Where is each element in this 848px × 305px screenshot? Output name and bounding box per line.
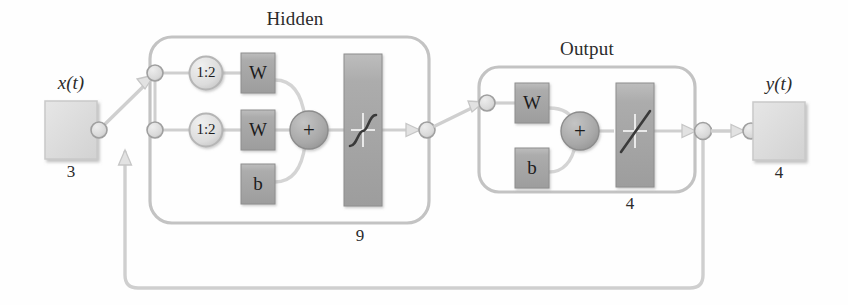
hidden-delay-label-2: 1:2 bbox=[186, 121, 226, 138]
output-input-node bbox=[479, 95, 495, 111]
output-bias-label: b bbox=[515, 157, 549, 179]
hidden-transfer-function-block bbox=[344, 54, 382, 206]
hidden-weight-label-2: W bbox=[241, 119, 275, 141]
input-to-hidden-connection bbox=[91, 75, 154, 138]
output-label-yt: y(t) bbox=[753, 73, 805, 95]
hidden-to-output-connection bbox=[435, 101, 484, 126]
output-block-yt bbox=[753, 102, 805, 160]
output-exit-node bbox=[695, 123, 712, 140]
hidden-bias-label: b bbox=[241, 173, 275, 195]
hidden-weight-label-1: W bbox=[241, 62, 275, 84]
hidden-input-node-2 bbox=[147, 122, 163, 138]
hidden-delay-label-1: 1:2 bbox=[186, 64, 226, 81]
output-size-label: 4 bbox=[753, 163, 805, 183]
output-layer-label: Output bbox=[522, 38, 652, 60]
diagram-canvas bbox=[0, 0, 848, 305]
output-to-yt-connection bbox=[711, 123, 759, 139]
input-label-xt: x(t) bbox=[45, 72, 97, 94]
hidden-layer-size-label: 9 bbox=[330, 226, 390, 246]
hidden-input-node-1 bbox=[147, 65, 163, 81]
hidden-output-node bbox=[419, 122, 435, 138]
output-weight-label: W bbox=[515, 92, 549, 114]
input-block-xt bbox=[45, 101, 97, 159]
output-sum-label: + bbox=[560, 119, 600, 144]
input-size-label: 3 bbox=[45, 162, 97, 182]
hidden-sum-label: + bbox=[289, 118, 329, 143]
neural-network-diagram: x(t) 3 Hidden 9 Output 4 y(t) 4 1:2 1:2 … bbox=[0, 0, 848, 305]
output-transfer-function-block bbox=[616, 83, 654, 187]
output-layer-size-label: 4 bbox=[600, 194, 660, 214]
hidden-layer-label: Hidden bbox=[230, 8, 360, 30]
